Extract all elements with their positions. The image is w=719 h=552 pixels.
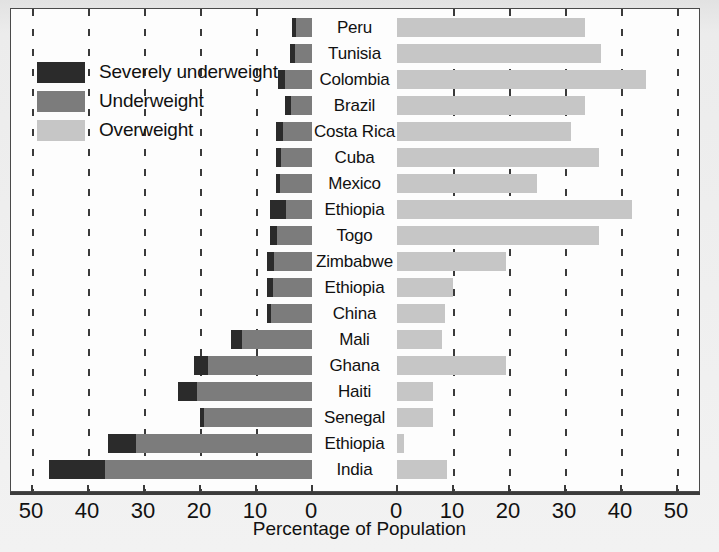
x-axis-title: Percentage of Population	[0, 518, 719, 540]
bar-severely-underweight	[178, 382, 198, 401]
bar-severely-underweight	[49, 460, 105, 479]
plot-area: PeruTunisiaColombiaBrazilCosta RicaCubaM…	[10, 8, 700, 492]
category-label: Cuba	[299, 146, 411, 169]
bar-severely-underweight	[194, 356, 208, 375]
axis-tick-left-40	[87, 485, 89, 492]
chart-figure: PeruTunisiaColombiaBrazilCosta RicaCubaM…	[0, 0, 719, 552]
bar-overweight	[397, 70, 646, 89]
category-label: Ghana	[299, 354, 411, 377]
axis-tick-left-30	[143, 485, 145, 492]
category-label: Tunisia	[299, 42, 411, 65]
category-label: Mali	[299, 328, 411, 351]
bar-overweight	[397, 200, 632, 219]
category-label: Ethiopia	[299, 198, 411, 221]
category-label: Mexico	[299, 172, 411, 195]
bar-severely-underweight	[231, 330, 242, 349]
x-axis: 5040302010001020304050	[10, 492, 700, 493]
bar-overweight	[397, 148, 599, 167]
x-axis-line	[10, 492, 700, 495]
bar-overweight	[397, 226, 599, 245]
bar-severely-underweight	[292, 18, 296, 37]
axis-tick-right-40	[620, 485, 622, 492]
bar-row: Ethiopia	[11, 431, 699, 457]
bar-overweight	[397, 356, 506, 375]
bar-row: Cuba	[11, 145, 699, 171]
legend-item-overweight: Overweight	[37, 119, 278, 141]
category-label: India	[299, 458, 411, 481]
bar-overweight	[397, 174, 537, 193]
bar-row: Peru	[11, 15, 699, 41]
legend-item-severely-underweight: Severely underweight	[37, 61, 278, 83]
legend-label-underweight: Underweight	[99, 90, 203, 112]
category-label: Senegal	[299, 406, 411, 429]
bar-row: Mali	[11, 327, 699, 353]
axis-tick-right-20	[508, 485, 510, 492]
category-label: Haiti	[299, 380, 411, 403]
category-label: Togo	[299, 224, 411, 247]
category-label: Costa Rica	[299, 120, 411, 143]
axis-tick-right-0	[396, 485, 398, 492]
legend-label-severely-underweight: Severely underweight	[99, 61, 278, 83]
bar-row: Haiti	[11, 379, 699, 405]
bar-severely-underweight	[270, 200, 286, 219]
legend-label-overweight: Overweight	[99, 119, 193, 141]
bar-severely-underweight	[278, 70, 285, 89]
category-label: China	[299, 302, 411, 325]
axis-tick-left-0	[311, 485, 313, 492]
chart-legend: Severely underweight Underweight Overwei…	[37, 61, 278, 148]
bar-overweight	[397, 44, 601, 63]
bar-severely-underweight	[276, 174, 280, 193]
bar-row: Togo	[11, 223, 699, 249]
category-label: Zimbabwe	[299, 250, 411, 273]
bar-overweight	[397, 96, 585, 115]
bar-severely-underweight	[200, 408, 204, 427]
bar-severely-underweight	[267, 278, 273, 297]
category-label: Colombia	[299, 68, 411, 91]
bar-severely-underweight	[270, 226, 277, 245]
category-label: Brazil	[299, 94, 411, 117]
bar-overweight	[397, 18, 585, 37]
bar-severely-underweight	[285, 96, 291, 115]
legend-item-underweight: Underweight	[37, 90, 278, 112]
bar-row: Senegal	[11, 405, 699, 431]
bar-row: Mexico	[11, 171, 699, 197]
category-label: Ethiopia	[299, 432, 411, 455]
bar-underweight	[108, 434, 312, 453]
bar-overweight	[397, 122, 571, 141]
bar-severely-underweight	[267, 304, 271, 323]
bar-severely-underweight	[276, 148, 282, 167]
category-label: Ethiopia	[299, 276, 411, 299]
axis-tick-left-20	[199, 485, 201, 492]
bar-overweight	[397, 252, 506, 271]
bar-row: India	[11, 457, 699, 483]
bar-row: Zimbabwe	[11, 249, 699, 275]
bar-severely-underweight	[108, 434, 136, 453]
legend-swatch-severely-underweight	[37, 62, 85, 83]
bar-row: Ghana	[11, 353, 699, 379]
category-label: Peru	[299, 16, 411, 39]
legend-swatch-overweight	[37, 120, 85, 141]
axis-tick-right-50	[676, 485, 678, 492]
bar-severely-underweight	[290, 44, 296, 63]
bar-underweight	[194, 356, 312, 375]
bar-row: Ethiopia	[11, 197, 699, 223]
bar-underweight	[178, 382, 312, 401]
bar-severely-underweight	[267, 252, 274, 271]
legend-swatch-underweight	[37, 91, 85, 112]
axis-tick-left-10	[255, 485, 257, 492]
bar-row: China	[11, 301, 699, 327]
axis-tick-right-30	[564, 485, 566, 492]
axis-tick-right-10	[452, 485, 454, 492]
bar-underweight	[200, 408, 312, 427]
bar-row: Ethiopia	[11, 275, 699, 301]
axis-tick-left-50	[31, 485, 33, 492]
